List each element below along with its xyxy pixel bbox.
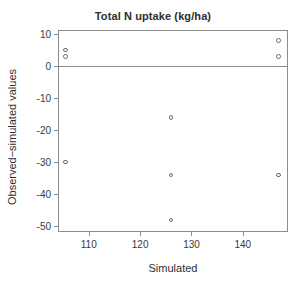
y-axis-tick-label: -30	[37, 157, 51, 168]
data-point	[63, 160, 68, 165]
x-axis-tick-mark	[243, 231, 244, 236]
y-axis-label: Observed−simulated values	[6, 36, 18, 238]
x-axis-tick-mark	[89, 231, 90, 236]
y-axis-tick-mark	[54, 162, 59, 163]
y-axis-tick-mark	[54, 98, 59, 99]
x-axis-tick-label: 140	[234, 239, 251, 250]
data-point	[276, 54, 281, 59]
y-axis-tick-label: -40	[37, 189, 51, 200]
y-axis-tick-label: -10	[37, 93, 51, 104]
y-axis-tick-mark	[54, 226, 59, 227]
data-point	[169, 115, 174, 120]
data-point	[276, 173, 281, 178]
y-axis-tick-label: -20	[37, 125, 51, 136]
plot-frame: 100-10-20-30-40-50110120130140	[58, 30, 288, 232]
x-axis-tick-mark	[140, 231, 141, 236]
x-axis-label: Simulated	[58, 262, 288, 274]
data-point	[63, 54, 68, 59]
y-axis-tick-label: 0	[45, 61, 51, 72]
y-axis-tick-label: 10	[40, 29, 51, 40]
x-axis-tick-label: 110	[81, 239, 97, 250]
chart-title: Total N uptake (kg/ha)	[0, 10, 306, 22]
scatter-plot-figure: Total N uptake (kg/ha) 100-10-20-30-40-5…	[0, 0, 306, 287]
y-axis-tick-mark	[54, 66, 59, 67]
data-point	[169, 173, 174, 178]
x-axis-tick-label: 130	[183, 239, 200, 250]
data-point	[276, 38, 281, 43]
x-axis-tick-mark	[191, 231, 192, 236]
y-axis-tick-mark	[54, 130, 59, 131]
y-axis-tick-mark	[54, 34, 59, 35]
x-axis-tick-label: 120	[132, 239, 149, 250]
data-point	[169, 218, 174, 223]
y-axis-tick-mark	[54, 194, 59, 195]
y-axis-tick-label: -50	[37, 221, 51, 232]
plot-area: 100-10-20-30-40-50110120130140	[59, 31, 287, 231]
data-point	[63, 48, 68, 53]
zero-line	[59, 66, 287, 67]
